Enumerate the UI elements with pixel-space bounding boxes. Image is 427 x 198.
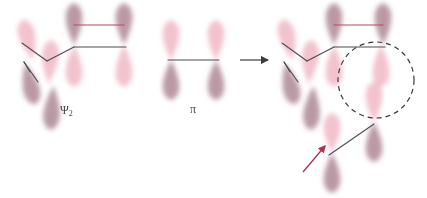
- orbital-lobes-layer: [15, 3, 391, 193]
- orbital-label-reactant-diene-psi2: Ψ2: [60, 104, 73, 116]
- orbital-lobe-pr-pi2-lower: [324, 153, 341, 193]
- orbital-lobe-pi-left-upper: [163, 20, 180, 60]
- orbital-lobe-p-mid-upper: [40, 39, 60, 84]
- orbital-lobe-pr-pi2-upper: [324, 113, 341, 153]
- orbital-lobe-pr-left-upper: [275, 18, 301, 63]
- orbital-lobe-p-left-lower: [17, 62, 43, 107]
- orbital-lobe-p-c4-lower: [116, 45, 133, 87]
- orbital-lobe-pr-c4-upper: [375, 3, 392, 45]
- orbital-lobe-pi-right-upper: [208, 20, 225, 60]
- panel-product-combined: [275, 3, 391, 193]
- orbital-lobe-pr-c3-upper: [326, 3, 343, 45]
- orbital-lobe-pr-pi-upper: [366, 82, 383, 122]
- orbital-lobe-p-c3-lower: [66, 45, 83, 87]
- orbital-lobe-pr-c4-lower: [373, 45, 390, 87]
- orbital-lobe-pr-left-lower: [277, 62, 303, 107]
- orbital-lobe-pr-mid-lower: [302, 85, 322, 130]
- orbital-lobe-pi-right-lower: [208, 60, 225, 100]
- electron-flow-red-arrow: [303, 146, 325, 172]
- psi-subscript: 2: [69, 109, 73, 118]
- orbital-lobe-pi-left-lower: [163, 60, 180, 100]
- annotations-layer: [240, 42, 414, 172]
- orbital-lobe-p-c4-upper: [116, 3, 133, 45]
- orbital-label-reactant-pi: π: [190, 103, 196, 115]
- psi-symbol: Ψ: [60, 103, 69, 117]
- orbital-lobe-p-left-upper: [15, 18, 41, 63]
- orbital-lobe-pr-c3-lower: [326, 45, 343, 87]
- orbital-lobe-pr-mid-upper: [300, 39, 320, 84]
- orbital-lobe-p-c3-upper: [66, 3, 83, 45]
- orbital-diagram-figure: Ψ2π: [0, 0, 427, 198]
- panel-reactant-diene-psi2: [15, 3, 132, 131]
- orbital-canvas: [0, 0, 427, 198]
- orbital-lobe-p-mid-lower: [42, 85, 62, 130]
